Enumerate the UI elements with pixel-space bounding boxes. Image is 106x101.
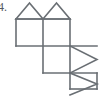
face-square-top-left bbox=[16, 19, 43, 46]
face-square-top-right bbox=[43, 19, 70, 46]
face-square-middle-right bbox=[70, 46, 97, 73]
triangle-top-left bbox=[16, 3, 43, 19]
face-square-middle bbox=[43, 46, 70, 73]
net-diagram bbox=[0, 0, 106, 101]
geometry-net-figure: 4. bbox=[0, 0, 106, 101]
triangle-top-right bbox=[43, 3, 70, 19]
